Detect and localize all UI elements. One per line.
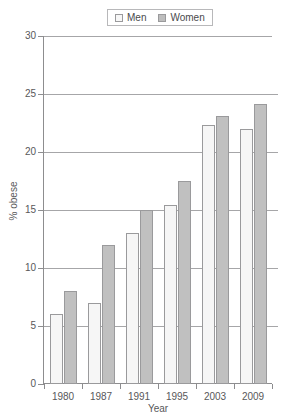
gridline-15 [44, 210, 272, 211]
x-tick-2003 [196, 384, 197, 389]
gridline-25 [44, 94, 272, 95]
obesity-bar-chart: Men Women % obese 051015202530 198019871… [0, 0, 287, 414]
bar-men-1980 [50, 314, 63, 384]
bar-men-1987 [88, 303, 101, 384]
y-tick-label-10: 10 [12, 263, 36, 273]
y-tick-label-25: 25 [12, 89, 36, 99]
x-tick-1980 [44, 384, 45, 389]
gridline-5 [44, 326, 272, 327]
legend-swatch-men-icon [115, 14, 123, 22]
gridline-30 [44, 36, 272, 37]
x-tick-2009 [234, 384, 235, 389]
bar-men-1995 [164, 205, 177, 384]
x-tick-1987 [82, 384, 83, 389]
legend-label-women: Women [170, 13, 204, 23]
gridline-20 [44, 152, 272, 153]
bar-women-1995 [178, 181, 191, 384]
y-tick-label-15: 15 [12, 205, 36, 215]
bar-men-1991 [126, 233, 139, 384]
y-right-tick-25 [272, 94, 278, 95]
x-tick-1991 [120, 384, 121, 389]
y-tick-label-20: 20 [12, 147, 36, 157]
plot-area [44, 36, 272, 384]
bar-men-2009 [240, 129, 253, 384]
y-right-tick-15 [272, 210, 278, 211]
y-right-tick-20 [272, 152, 278, 153]
bar-women-1980 [64, 291, 77, 384]
bar-women-2003 [216, 116, 229, 384]
y-right-tick-5 [272, 326, 278, 327]
y-right-tick-10 [272, 268, 278, 269]
y-tick-label-30: 30 [12, 31, 36, 41]
bar-women-1991 [140, 210, 153, 384]
gridline-10 [44, 268, 272, 269]
legend-entry-women: Women [158, 13, 204, 23]
legend-entry-men: Men [115, 13, 146, 23]
bar-women-2009 [254, 104, 267, 384]
x-axis-title: Year [44, 404, 272, 414]
x-tick-label-2009: 2009 [231, 391, 275, 402]
chart-legend: Men Women [107, 9, 213, 26]
x-tick-end [272, 384, 273, 389]
legend-label-men: Men [127, 13, 146, 23]
bar-women-1987 [102, 245, 115, 384]
x-tick-1995 [158, 384, 159, 389]
legend-swatch-women-icon [158, 14, 166, 22]
y-tick-label-0: 0 [12, 379, 36, 389]
y-tick-label-5: 5 [12, 321, 36, 331]
bar-men-2003 [202, 125, 215, 384]
y-axis-title: % obese [9, 171, 19, 231]
